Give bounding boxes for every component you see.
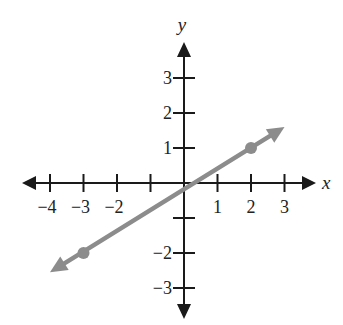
data-point xyxy=(78,247,90,259)
y-tick-label: 1 xyxy=(163,138,172,158)
y-axis-down-arrow-icon xyxy=(177,304,191,319)
x-tick-label: 3 xyxy=(280,197,289,217)
y-tick-label: 2 xyxy=(163,103,172,123)
y-tick-label: −2 xyxy=(153,243,172,263)
data-point xyxy=(245,142,257,154)
x-axis-label: x xyxy=(321,172,331,193)
y-tick-label: −3 xyxy=(153,278,172,298)
x-tick-label: −4 xyxy=(37,197,56,217)
x-axis-right-arrow-icon xyxy=(302,176,316,190)
x-tick-label: 1 xyxy=(213,197,222,217)
y-tick-label: 3 xyxy=(163,68,172,88)
x-tick-label: −3 xyxy=(71,197,90,217)
x-tick-label: 2 xyxy=(247,197,256,217)
y-axis-up-arrow-icon xyxy=(177,42,191,57)
y-axis-label: y xyxy=(176,14,187,35)
coordinate-plane: −4−3−2123−3−2123xy xyxy=(0,0,343,325)
x-tick-label: −2 xyxy=(104,197,123,217)
x-axis-left-arrow-icon xyxy=(22,176,36,190)
